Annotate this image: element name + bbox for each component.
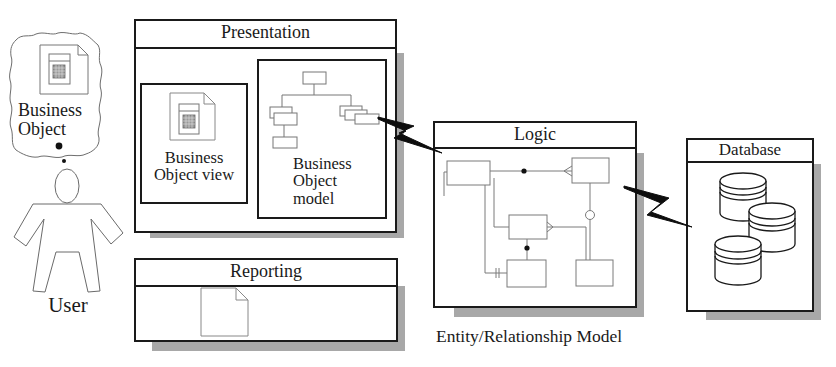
thought-bubble-dot-small: [62, 159, 66, 163]
report-document-icon: [201, 288, 248, 336]
bo-view-line1: Business: [141, 149, 247, 166]
business-object-view-label: Business Object view: [141, 149, 247, 184]
business-object-model-label: Business Object model: [293, 155, 352, 207]
bo-model-line2: Object: [293, 172, 352, 189]
thought-label-line1: Business: [18, 101, 104, 120]
thought-label: Business Object: [14, 101, 104, 139]
er-dot-1: [521, 168, 526, 173]
er-dot-2: [524, 245, 529, 250]
reporting-title: Reporting: [135, 262, 397, 281]
bo-model-line3: model: [293, 190, 352, 207]
bo-view-line2: Object view: [141, 166, 247, 183]
cylinder-3: [715, 236, 761, 285]
thought-label-line2: Object: [18, 120, 104, 139]
logic-title: Logic: [434, 125, 636, 144]
presentation-title: Presentation: [135, 23, 396, 42]
user-head: [55, 169, 79, 203]
database-title: Database: [687, 141, 813, 159]
business-object-view-document-icon: [170, 93, 215, 140]
user-figure: [14, 169, 123, 292]
bo-model-line1: Business: [293, 155, 352, 172]
business-object-document-icon: [40, 45, 88, 94]
thought-bubble-dot-large: [56, 143, 63, 150]
er-model-caption: Entity/Relationship Model: [436, 327, 622, 345]
user-label: User: [30, 294, 106, 316]
